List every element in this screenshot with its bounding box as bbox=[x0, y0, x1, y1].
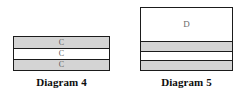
layer-label: C bbox=[59, 61, 65, 69]
layer-band bbox=[141, 51, 232, 60]
layer-stack: C C C bbox=[13, 36, 110, 71]
layer-label: C bbox=[59, 39, 65, 47]
layer-band bbox=[141, 60, 232, 70]
layer-label: C bbox=[59, 50, 65, 58]
layer-band: D bbox=[141, 8, 232, 41]
layer-band: C bbox=[14, 59, 109, 70]
layer-band: C bbox=[14, 48, 109, 59]
diagram-canvas: C C C Diagram 4 D bbox=[0, 0, 248, 98]
figure-diagram-4: C C C bbox=[13, 36, 110, 71]
layer-band: C bbox=[14, 37, 109, 48]
figure-diagram-5: D bbox=[140, 7, 233, 71]
layer-stack: D bbox=[140, 7, 233, 71]
figure-caption: Diagram 4 bbox=[13, 77, 110, 88]
figure-caption: Diagram 5 bbox=[140, 77, 233, 88]
layer-label: D bbox=[183, 20, 190, 29]
layer-band bbox=[141, 41, 232, 51]
